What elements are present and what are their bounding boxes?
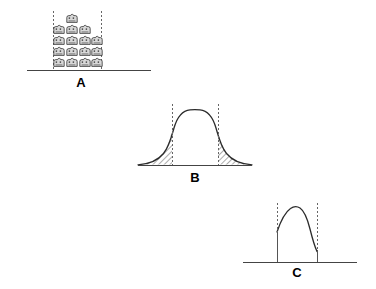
- panel-b-normal-curve: [138, 110, 252, 165]
- panel-b-label: B: [190, 170, 199, 185]
- figure-root: A B C: [0, 0, 376, 289]
- panel-a: A: [27, 11, 151, 90]
- panel-a-population: [54, 14, 102, 66]
- critter: [80, 47, 90, 55]
- critter: [92, 36, 102, 44]
- truncation-figure: A B C: [0, 0, 376, 289]
- critter: [54, 36, 64, 44]
- critter: [80, 25, 90, 33]
- critter: [67, 58, 77, 66]
- critter: [67, 47, 77, 55]
- critter: [92, 47, 102, 55]
- panel-c-truncated-curve: [277, 207, 317, 252]
- critter: [54, 47, 64, 55]
- critter: [67, 25, 77, 33]
- critter: [80, 36, 90, 44]
- panel-c: C: [243, 203, 357, 280]
- critter: [54, 25, 64, 33]
- critter: [54, 58, 64, 66]
- critter: [80, 58, 90, 66]
- critter: [92, 58, 102, 66]
- panel-c-label: C: [292, 265, 302, 280]
- panel-a-label: A: [76, 75, 86, 90]
- critter: [67, 14, 77, 22]
- panel-b: B: [138, 104, 252, 185]
- critter: [67, 36, 77, 44]
